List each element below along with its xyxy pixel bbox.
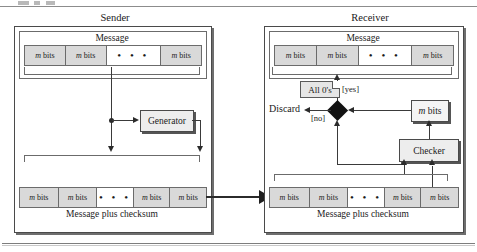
- generator-out-arrowhead: [197, 146, 203, 152]
- checker-to-mbits-arrowhead: [426, 120, 432, 126]
- bit-cell: m bits: [161, 46, 201, 65]
- bit-cell-ellipsis: • • •: [348, 188, 385, 207]
- receiver-message-cells: m bits m bits • • • m bits: [274, 45, 454, 66]
- scan-artifact: [18, 1, 29, 5]
- note-fold-corner: [332, 81, 340, 89]
- bit-cell: m bits: [310, 188, 349, 207]
- bit-cell-ellipsis: • • •: [97, 188, 134, 207]
- all-zeros-note-label: All 0's: [308, 85, 331, 95]
- all-zeros-note: All 0's: [300, 81, 340, 98]
- sender-to-generator-line: [112, 120, 134, 121]
- bit-cell: m bits: [421, 188, 458, 207]
- sender-message-brace: [24, 67, 200, 75]
- bit-cell: m bits: [20, 188, 59, 207]
- receiver-checksum-label: Message plus checksum: [269, 209, 457, 219]
- checker-to-mbits-line: [429, 126, 430, 140]
- checksum-branch-line: [337, 164, 405, 165]
- sender-checksum-label: Message plus checksum: [19, 209, 205, 219]
- bit-cell-ellipsis: • • •: [359, 46, 413, 65]
- checker-input-right-arrowhead: [429, 159, 435, 165]
- sender-checksum-brace: [24, 155, 200, 162]
- receiver-mbits-box[interactable]: m bits: [411, 100, 449, 122]
- bit-cell: m bits: [170, 188, 206, 207]
- receiver-checksum-brace: [274, 174, 448, 181]
- bit-cell-ellipsis: • • •: [107, 46, 162, 65]
- sender-to-generator-arrowhead: [133, 117, 139, 123]
- receiver-message-label: Message: [269, 33, 457, 43]
- sender-message-label: Message: [19, 33, 205, 43]
- bit-cell: m bits: [59, 188, 98, 207]
- checker-input-left-arrowhead: [401, 159, 407, 165]
- bottom-divider-shadow: [2, 245, 475, 246]
- bit-cell: m bits: [270, 188, 310, 207]
- no-label: [no]: [311, 113, 325, 123]
- bit-cell: m bits: [66, 46, 107, 65]
- sender-checksum-cells: m bits m bits • • • m bits m bits: [19, 187, 207, 208]
- checksum-to-diamond-line: [337, 126, 338, 165]
- discard-arrowhead: [304, 107, 310, 113]
- mbits-to-diamond-arrowhead: [348, 107, 354, 113]
- sender-message-cells: m bits m bits • • • m bits: [24, 45, 202, 66]
- generator-out-drop: [200, 120, 201, 147]
- bit-cell: m bits: [385, 188, 422, 207]
- top-divider: [0, 6, 477, 7]
- sender-tap-line: [111, 67, 112, 147]
- bit-cell: m bits: [25, 46, 66, 65]
- checksum-diagram: Sender Message m bits m bits • • • m bit…: [0, 0, 477, 252]
- scan-artifact: [46, 1, 55, 5]
- bit-cell: m bits: [412, 46, 453, 65]
- yes-label: [yes]: [342, 84, 359, 94]
- mbits-to-diamond-line: [350, 110, 411, 111]
- checksum-to-diamond-arrowhead: [334, 120, 340, 126]
- sender-tap-arrowhead: [108, 146, 114, 152]
- transmission-line: [206, 196, 261, 198]
- receiver-title: Receiver: [300, 12, 440, 23]
- generator-box[interactable]: Generator: [140, 110, 194, 132]
- bit-cell: m bits: [275, 46, 317, 65]
- bit-cell: m bits: [317, 46, 359, 65]
- discard-label: Discard: [269, 103, 300, 114]
- yes-arrowhead: [334, 74, 340, 80]
- receiver-message-brace: [272, 67, 452, 75]
- receiver-checksum-cells: m bits m bits • • • m bits m bits: [269, 187, 459, 208]
- bit-cell: m bits: [134, 188, 171, 207]
- bottom-divider: [2, 243, 475, 244]
- scan-artifact: [34, 1, 40, 5]
- sender-title: Sender: [45, 12, 185, 23]
